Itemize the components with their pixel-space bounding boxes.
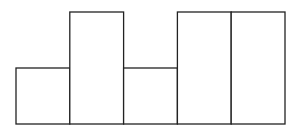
bar-plot [0, 0, 302, 133]
bar-4 [177, 12, 231, 124]
histogram-chart [0, 0, 302, 133]
bar-1 [16, 68, 70, 124]
bar-5 [231, 12, 285, 124]
bar-2 [70, 12, 124, 124]
bar-3 [124, 68, 178, 124]
